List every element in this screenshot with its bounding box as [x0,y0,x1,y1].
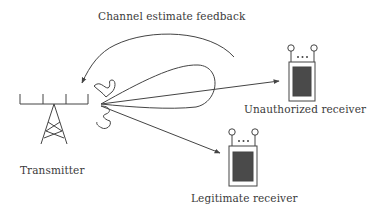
unauthorized-receiver-icon [288,45,317,101]
legitimate-receiver-label: Legitimate receiver [191,192,298,204]
arrow-to-legitimate [101,106,220,153]
side-lobe-upper-shape [94,80,115,97]
transmitter-antenna-icon [20,94,88,144]
legitimate-receiver-icon [229,129,258,186]
transmitter-label: Transmitter [20,164,85,176]
feedback-arrow [82,34,234,83]
feedback-label: Channel estimate feedback [98,10,245,22]
arrow-to-unauthorized [101,81,279,104]
unauthorized-receiver-label: Unauthorized receiver [244,103,366,115]
